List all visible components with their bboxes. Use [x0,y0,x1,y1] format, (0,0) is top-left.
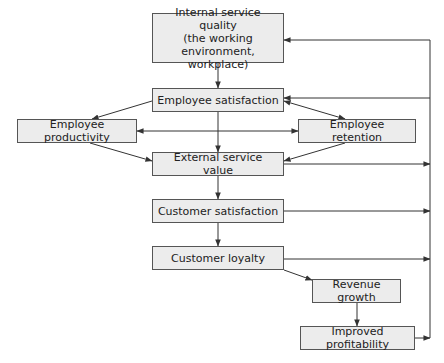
node-label: Revenue growth [317,278,396,304]
node-label: Employee productivity [22,118,132,144]
node-label: Improved profitability [305,325,410,351]
node-revenue-growth: Revenue growth [312,279,401,303]
node-label: Customer loyalty [171,252,265,265]
node-internal-service-quality: Internal service quality (the working en… [152,13,284,63]
node-label: Customer satisfaction [158,205,278,218]
node-label: Employee satisfaction [157,94,278,107]
node-employee-satisfaction: Employee satisfaction [152,88,284,112]
node-label: External service value [157,151,279,177]
service-profit-chain-diagram: Internal service quality (the working en… [0,0,444,363]
edge-es-to-ep [92,101,152,119]
node-customer-loyalty: Customer loyalty [152,246,284,270]
edge-es-er [284,101,345,119]
edge-er-to-esv [284,143,345,161]
edge-cl-to-rg [284,270,312,280]
node-employee-retention: Employee retention [298,119,416,143]
node-customer-satisfaction: Customer satisfaction [152,199,284,223]
node-label: Internal service quality (the working en… [157,6,279,71]
node-label: Employee retention [303,118,411,144]
node-improved-profitability: Improved profitability [300,326,415,350]
node-employee-productivity: Employee productivity [17,119,137,143]
edge-ep-to-esv [90,143,152,161]
node-external-service-value: External service value [152,152,284,176]
